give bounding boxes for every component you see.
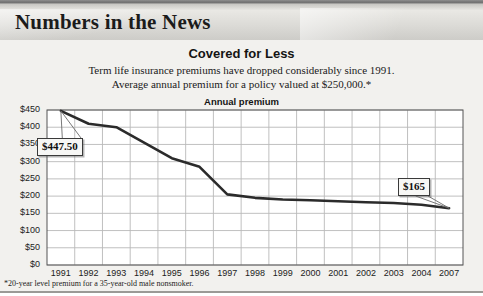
y-tick-label: $0 xyxy=(8,259,40,269)
page-root: Numbers in the News Covered for Less Ter… xyxy=(0,0,483,296)
callout-first-value: $447.50 xyxy=(37,138,83,156)
y-tick-label: $400 xyxy=(8,121,40,131)
y-tick-label: $200 xyxy=(8,190,40,200)
y-tick-label: $250 xyxy=(8,173,40,183)
y-tick-label: $450 xyxy=(8,104,40,114)
y-tick-label: $50 xyxy=(8,242,40,252)
y-tick-label: $350 xyxy=(8,138,40,148)
chart-footnote: *20-year level premium for a 35-year-old… xyxy=(4,279,194,288)
callout-last-value: $165 xyxy=(398,178,430,196)
y-tick-label: $300 xyxy=(8,156,40,166)
y-tick-label: $150 xyxy=(8,207,40,217)
x-tick-label: 2007 xyxy=(433,268,465,278)
y-tick-label: $100 xyxy=(8,225,40,235)
